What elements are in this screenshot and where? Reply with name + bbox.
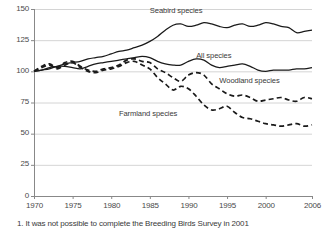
x-axis-tick-label: 1980 <box>92 201 132 210</box>
y-axis-tick-label: 150 <box>16 4 29 13</box>
y-axis-tick-label: 50 <box>21 128 30 137</box>
y-axis-tick-label: 125 <box>16 35 29 44</box>
bird-population-index-chart: 0255075100125150197019751980198519901995… <box>0 0 323 230</box>
y-axis-tick-label: 25 <box>21 159 30 168</box>
series-label-woodland-species: Woodland species <box>219 76 279 85</box>
y-axis-tick-label: 0 <box>25 191 29 200</box>
series-label-farmland-species: Farmland species <box>119 109 177 118</box>
series-label-seabird-species: Seabird species <box>150 6 203 15</box>
y-axis-tick-label: 100 <box>16 66 29 75</box>
x-axis-tick-label: 2006 <box>293 201 323 210</box>
series-label-all-species: All species <box>196 51 231 60</box>
x-axis-tick-label: 2000 <box>246 201 286 210</box>
x-axis-tick-label: 1985 <box>130 201 170 210</box>
x-axis-tick-label: 1995 <box>208 201 248 210</box>
x-axis-tick-label: 1970 <box>15 201 55 210</box>
x-axis-tick-label: 1990 <box>169 201 209 210</box>
chart-footnote: 1. It was not possible to complete the B… <box>17 219 249 228</box>
x-axis-tick-label: 1975 <box>53 201 93 210</box>
y-axis-tick-label: 75 <box>21 97 30 106</box>
